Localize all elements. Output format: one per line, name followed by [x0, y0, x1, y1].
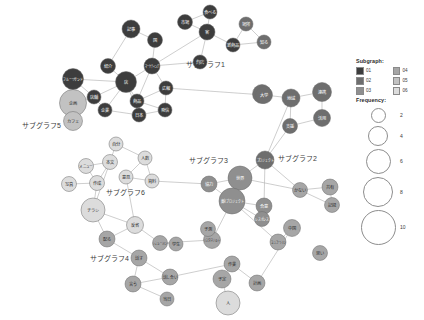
subgraph-color-swatch [356, 67, 364, 75]
graph-node[interactable]: 東京プロジェクト [219, 188, 245, 214]
graph-node-label: 計画 [253, 280, 261, 286]
graph-node[interactable]: 作業 [224, 256, 240, 272]
graph-node-label: 広報 [162, 85, 170, 91]
graph-node[interactable]: 資料 [145, 174, 159, 188]
graph-node[interactable]: 地域 [282, 89, 300, 107]
graph-node[interactable]: 店 [116, 72, 137, 93]
graph-node[interactable]: 写真 [62, 177, 77, 192]
graph-node-label: 合意 [260, 203, 268, 209]
graph-node-label: 当日 [163, 296, 171, 302]
graph-edge [166, 88, 264, 95]
graph-node[interactable]: 反省 [127, 217, 144, 234]
graph-node[interactable]: カフェ [64, 112, 83, 131]
graph-node[interactable]: 記録 [325, 198, 340, 213]
graph-node[interactable]: 話す [131, 250, 147, 266]
graph-node-label: 配る [103, 236, 111, 242]
frequency-legend-item: 8 [356, 175, 424, 208]
graph-node[interactable]: 自分 [109, 137, 123, 151]
graph-node-label: 商品 [133, 98, 141, 104]
graph-node[interactable]: 学生 [169, 237, 183, 251]
graph-node-label: 大学 [260, 92, 268, 98]
frequency-legend-value: 10 [400, 224, 406, 230]
graph-node[interactable]: 本文 [103, 155, 118, 170]
graph-node[interactable]: 言う [125, 276, 141, 292]
graph-node[interactable]: フルーツサンド [63, 69, 84, 90]
graph-node[interactable]: 予定 [213, 270, 231, 288]
graph-node[interactable]: 計画 [249, 275, 265, 291]
graph-node[interactable]: 話し合い [162, 269, 178, 285]
graph-node[interactable]: 意見 [119, 170, 133, 184]
subgraph-legend-label: 05 [403, 78, 408, 83]
frequency-circle-cell [356, 175, 400, 208]
graph-node[interactable]: 客 [199, 24, 215, 40]
graph-node-label: 市場 [181, 19, 189, 25]
graph-node[interactable]: 場所 [239, 17, 253, 31]
graph-node[interactable]: 広報 [159, 81, 173, 95]
graph-node[interactable]: シミュレーション [153, 236, 168, 251]
frequency-circle [366, 149, 391, 174]
graph-node[interactable]: 人 [216, 291, 240, 315]
graph-node[interactable]: 紹介 [101, 59, 116, 74]
graph-node[interactable]: 日本 [132, 108, 146, 122]
graph-node[interactable]: 活用 [314, 110, 331, 127]
graph-node[interactable]: 配る [99, 231, 115, 247]
graph-node-label: かない [294, 187, 307, 193]
graph-node[interactable]: 国 [148, 33, 163, 48]
frequency-legend: Frequency: 246810 [356, 97, 424, 246]
graph-node-label: 発信 [161, 107, 169, 113]
subgraph-legend-item: 01 [356, 67, 386, 75]
graph-node[interactable]: かない [293, 183, 308, 198]
graph-node-label: 作成 [93, 180, 101, 186]
graph-node-label: 中国 [288, 225, 296, 231]
graph-node[interactable]: マーケティング [144, 58, 160, 74]
cluster-label: サブグラフ1 [186, 60, 225, 69]
graph-node[interactable]: チラシ [81, 198, 105, 222]
graph-node[interactable]: 予測 [201, 222, 216, 237]
graph-node[interactable]: 商品 [130, 94, 144, 108]
subgraph-legend-label: 04 [403, 68, 408, 73]
subgraph-legend-item: 06 [393, 87, 423, 95]
graph-node[interactable]: メニュー [79, 159, 94, 174]
subgraph-color-swatch [393, 87, 401, 95]
graph-node-label: 人 [226, 301, 230, 306]
graph-node[interactable]: 当日 [160, 292, 174, 306]
graph-node[interactable]: 世界 [228, 166, 252, 190]
graph-node[interactable]: プロジェクト [256, 151, 274, 169]
graph-node[interactable]: 大学 [256, 87, 273, 104]
graph-node[interactable]: 店舗 [87, 90, 101, 104]
graph-node-label: 人数 [141, 155, 149, 161]
graph-node[interactable]: 共有 [322, 179, 338, 195]
graph-node[interactable]: 支援 [283, 119, 298, 134]
graph-node-label: カフェ [67, 119, 80, 124]
subgraph-color-swatch [356, 77, 364, 85]
graph-node[interactable]: 新商品 [226, 38, 240, 52]
graph-node[interactable]: コミュニケーション [270, 234, 286, 250]
subgraph-legend-label: 01 [366, 68, 371, 73]
graph-node[interactable]: レスポンス [255, 212, 270, 227]
graph-node[interactable]: 発信 [158, 103, 172, 117]
frequency-legend-item: 2 [356, 106, 424, 124]
graph-node[interactable]: 作成 [90, 176, 105, 191]
graph-node[interactable]: 中国 [284, 220, 301, 237]
graph-node-label: 企画 [69, 100, 77, 106]
network-graph-canvas: 企画カフェフルーツサンド紹介店舗店記事国マーケティング商品広報企業日本発信市場食… [0, 0, 424, 320]
graph-node[interactable]: 人数 [138, 151, 152, 165]
graph-node[interactable]: 企業 [98, 103, 112, 117]
frequency-legend-item: 4 [356, 124, 424, 147]
subgraph-legend-label: 03 [366, 88, 371, 93]
graph-node[interactable]: 協力 [201, 176, 217, 192]
graph-node[interactable]: 連携 [313, 83, 332, 102]
graph-node-label: フルーツサンド [63, 77, 82, 82]
graph-node-label: コミュニケーション [271, 239, 286, 245]
frequency-circle [363, 177, 393, 207]
graph-node-label: 日本 [135, 112, 143, 118]
graph-node-label: レスポンス [255, 216, 269, 222]
graph-node[interactable]: 記事 [122, 20, 140, 38]
graph-node[interactable]: 思い [313, 246, 328, 261]
graph-node[interactable]: 食べる [203, 5, 217, 19]
graph-node-label: 話す [135, 255, 143, 261]
frequency-circle [368, 126, 388, 146]
graph-node-label: 予測 [204, 226, 212, 232]
graph-node[interactable]: 知る [257, 35, 271, 49]
graph-node[interactable]: 市場 [178, 15, 193, 30]
